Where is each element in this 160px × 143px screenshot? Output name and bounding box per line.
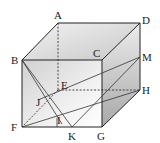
label-C: C [93, 47, 100, 59]
label-D: D [142, 14, 150, 26]
label-A: A [54, 9, 62, 21]
label-H: H [142, 84, 150, 96]
label-F: F [11, 121, 17, 133]
label-M: M [142, 51, 152, 63]
diagram-canvas: A D B C M E H J I F K G [0, 0, 160, 143]
front-face [22, 60, 102, 127]
label-B: B [11, 54, 18, 66]
label-I: I [57, 114, 61, 126]
label-E: E [61, 79, 68, 91]
label-J: J [36, 96, 41, 108]
label-G: G [97, 130, 105, 142]
label-K: K [68, 130, 76, 142]
cuboid-diagram: A D B C M E H J I F K G [0, 0, 160, 143]
